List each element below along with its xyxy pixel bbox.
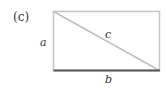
diagonal-c-line	[54, 12, 160, 71]
rectangle-diagram: (c) a c b	[0, 0, 166, 91]
side-a-label: a	[40, 37, 47, 48]
panel-label: (c)	[13, 11, 29, 23]
side-b-label: b	[105, 74, 112, 85]
diagonal-c-label: c	[105, 29, 111, 40]
